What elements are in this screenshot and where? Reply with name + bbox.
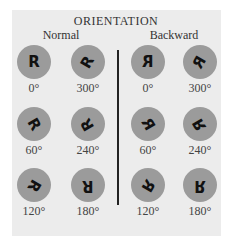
diagram-title: ORIENTATION bbox=[0, 14, 232, 29]
mirrored-r-glyph-icon: R bbox=[139, 115, 158, 133]
disc: R bbox=[71, 168, 105, 202]
angle-label: 0° bbox=[9, 81, 59, 96]
angle-label: 120° bbox=[123, 204, 173, 219]
normal-180-deg-item: R 180° bbox=[63, 168, 113, 219]
backward-column-heading: Backward bbox=[124, 28, 224, 43]
mirrored-r-glyph-icon: R bbox=[191, 53, 210, 71]
disc: R bbox=[71, 107, 105, 141]
angle-label: 180° bbox=[175, 204, 225, 219]
angle-label: 240° bbox=[175, 143, 225, 158]
disc: R bbox=[17, 45, 51, 79]
angle-label: 60° bbox=[9, 143, 59, 158]
normal-120-deg-item: R 120° bbox=[9, 168, 59, 219]
normal-0-deg-item: R 0° bbox=[9, 45, 59, 96]
disc: R bbox=[131, 168, 165, 202]
normal-240-deg-item: R 240° bbox=[63, 107, 113, 158]
backward-300-deg-item: R 300° bbox=[175, 45, 225, 96]
angle-label: 300° bbox=[175, 81, 225, 96]
disc: R bbox=[183, 107, 217, 141]
r-glyph-icon: R bbox=[79, 53, 98, 71]
angle-label: 180° bbox=[63, 204, 113, 219]
normal-60-deg-item: R 60° bbox=[9, 107, 59, 158]
disc: R bbox=[183, 45, 217, 79]
disc: R bbox=[17, 107, 51, 141]
angle-label: 60° bbox=[123, 143, 173, 158]
angle-label: 0° bbox=[123, 81, 173, 96]
mirrored-r-glyph-icon: R bbox=[142, 55, 154, 70]
normal-column-heading: Normal bbox=[11, 28, 111, 43]
angle-label: 240° bbox=[63, 143, 113, 158]
backward-120-deg-item: R 120° bbox=[123, 168, 173, 219]
disc: R bbox=[183, 168, 217, 202]
angle-label: 300° bbox=[63, 81, 113, 96]
column-divider bbox=[117, 50, 119, 205]
angle-label: 120° bbox=[9, 204, 59, 219]
disc: R bbox=[71, 45, 105, 79]
backward-60-deg-item: R 60° bbox=[123, 107, 173, 158]
mirrored-r-glyph-icon: R bbox=[191, 115, 210, 133]
normal-300-deg-item: R 300° bbox=[63, 45, 113, 96]
mirrored-r-glyph-icon: R bbox=[139, 176, 158, 194]
backward-240-deg-item: R 240° bbox=[175, 107, 225, 158]
r-glyph-icon: R bbox=[25, 176, 44, 194]
r-glyph-icon: R bbox=[25, 115, 44, 133]
backward-180-deg-item: R 180° bbox=[175, 168, 225, 219]
disc: R bbox=[131, 45, 165, 79]
backward-0-deg-item: R 0° bbox=[123, 45, 173, 96]
disc: R bbox=[17, 168, 51, 202]
r-glyph-icon: R bbox=[82, 178, 94, 193]
disc: R bbox=[131, 107, 165, 141]
mirrored-r-glyph-icon: R bbox=[194, 178, 206, 193]
r-glyph-icon: R bbox=[28, 55, 40, 70]
r-glyph-icon: R bbox=[79, 115, 98, 133]
